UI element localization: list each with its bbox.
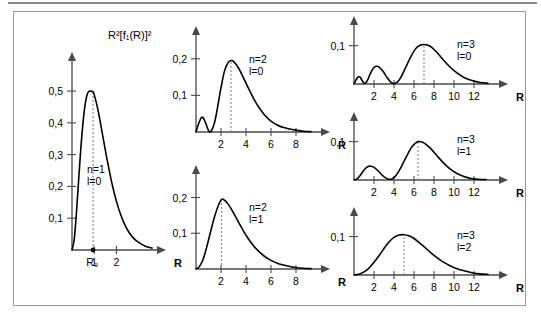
x-tick-label: 12: [468, 281, 480, 293]
panel-n2-l1: 24680,10,2R: [154, 177, 334, 292]
x-tick-label: 6: [411, 90, 417, 102]
x-tick-label: 2: [371, 186, 377, 198]
y-tick-label: 0,1: [330, 40, 345, 52]
x-tick-label: 4: [243, 138, 249, 150]
y-tick-label: 0,2: [172, 53, 187, 65]
x-tick-label: 2: [371, 281, 377, 293]
y-tick-label: 0,1: [48, 212, 63, 224]
y-tick-label: 0,1: [330, 136, 345, 148]
y-tick-label: 0,5: [48, 85, 63, 97]
l-label: l=1: [457, 146, 475, 158]
x-tick-label: 10: [448, 186, 460, 198]
panel-n3-l2: 246810120,1R: [314, 217, 519, 297]
plot-n2-l0: 24680,10,2R: [154, 34, 334, 154]
y-tick-label: 0,2: [48, 180, 63, 192]
x-axis-letter: R: [516, 187, 524, 199]
l-label: l=0: [457, 51, 475, 63]
y-axis-title: R²[f₁(R)]²: [108, 29, 151, 41]
x-axis-letter: R: [516, 282, 524, 294]
panel-label-n1-l0: n=1 l=0: [87, 164, 105, 187]
n-label: n=3: [457, 134, 475, 146]
curve: [72, 91, 152, 250]
plot-n3-l0: 246810120,1R: [314, 26, 519, 106]
panel-label-n2-l1: n=2 l=1: [249, 202, 267, 225]
x-tick-label: 12: [468, 90, 480, 102]
figure-frame: 120,10,20,30,40,5RR₀ R²[f₁(R)]² n=1 l=0 …: [13, 11, 526, 306]
x-tick-label: 2: [371, 90, 377, 102]
y-tick-label: 0,1: [172, 89, 187, 101]
x-tick-label: 12: [468, 186, 480, 198]
y-tick-label: 0,1: [172, 227, 187, 239]
panel-n3-l1: 246810120,1R: [314, 122, 519, 202]
top-rule: [8, 2, 537, 4]
x-tick-label: 10: [448, 281, 460, 293]
n-label: n=3: [457, 230, 475, 242]
l-label: l=0: [87, 176, 105, 188]
y-tick-label: 0,1: [330, 231, 345, 243]
x-tick-label: 8: [431, 281, 437, 293]
radial-distribution-figure: 120,10,20,30,40,5RR₀ R²[f₁(R)]² n=1 l=0 …: [0, 0, 541, 321]
n-label: n=3: [457, 39, 475, 51]
x-tick-label: 2: [218, 275, 224, 287]
x-tick-label: 4: [391, 186, 397, 198]
plot-n2-l1: 24680,10,2R: [154, 177, 334, 292]
panel-label-n3-l1: n=3 l=1: [457, 134, 475, 157]
panel-label-n3-l0: n=3 l=0: [457, 39, 475, 62]
x-axis-letter: R: [516, 91, 524, 103]
x-tick-label: 8: [431, 90, 437, 102]
l-label: l=2: [457, 242, 475, 254]
y-tick-label: 0,2: [172, 192, 187, 204]
x-tick-label: 4: [391, 90, 397, 102]
plot-n3-l2: 246810120,1R: [314, 217, 519, 297]
x-tick-label: 6: [411, 186, 417, 198]
x-tick-label: 8: [293, 138, 299, 150]
x-tick-label: 6: [411, 281, 417, 293]
l-label: l=0: [249, 66, 267, 78]
x-tick-label: 2: [114, 256, 120, 268]
panel-label-n2-l0: n=2 l=0: [249, 54, 267, 77]
panel-n3-l0: 246810120,1R: [314, 26, 519, 106]
panel-n2-l0: 24680,10,2R: [154, 34, 334, 154]
x-tick-label: 6: [268, 138, 274, 150]
y-tick-label: 0,3: [48, 149, 63, 161]
x-tick-label: 8: [293, 275, 299, 287]
n-label: n=1: [87, 164, 105, 176]
panel-label-n3-l2: n=3 l=2: [457, 230, 475, 253]
n-label: n=2: [249, 54, 267, 66]
x-tick-label: 4: [243, 275, 249, 287]
n-label: n=2: [249, 202, 267, 214]
x-tick-label: 6: [268, 275, 274, 287]
l-label: l=1: [249, 214, 267, 226]
x-tick-label: 10: [448, 90, 460, 102]
x-tick-label: 4: [391, 281, 397, 293]
plot-n3-l1: 246810120,1R: [314, 122, 519, 202]
r0-label: R₀: [86, 256, 98, 268]
x-tick-label: 2: [218, 138, 224, 150]
y-tick-label: 0,4: [48, 117, 63, 129]
x-tick-label: 8: [431, 186, 437, 198]
